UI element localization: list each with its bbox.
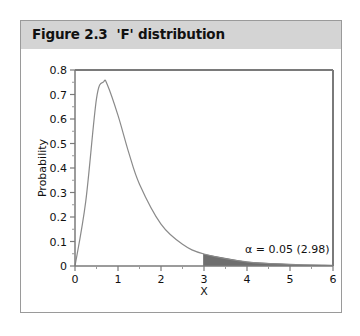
alpha-annotation: α = 0.05 (2.98) (245, 243, 330, 256)
x-tick-label: 2 (158, 273, 165, 286)
y-tick-label: 0.3 (50, 187, 68, 200)
plot-area (75, 70, 333, 266)
y-tick-label: 0.5 (50, 138, 68, 151)
f-distribution-chart: 00.10.20.30.40.50.60.70.8 0123456 Probab… (0, 0, 360, 336)
x-axis-title: X (200, 285, 208, 298)
y-tick-label: 0.8 (50, 64, 68, 77)
y-tick-label: 0.7 (50, 89, 68, 102)
x-tick-label: 6 (330, 273, 337, 286)
x-axis: 0123456 (72, 266, 337, 286)
y-tick-label: 0.1 (50, 236, 68, 249)
x-tick-label: 0 (72, 273, 79, 286)
x-tick-label: 1 (115, 273, 122, 286)
y-axis: 00.10.20.30.40.50.60.70.8 (50, 64, 76, 273)
x-tick-label: 5 (287, 273, 294, 286)
y-axis-title: Probability (36, 138, 49, 197)
y-tick-label: 0.6 (50, 113, 68, 126)
y-tick-label: 0.2 (50, 211, 68, 224)
x-tick-label: 4 (244, 273, 251, 286)
y-tick-label: 0.4 (50, 162, 68, 175)
density-curve (75, 80, 333, 266)
y-tick-label: 0 (60, 260, 67, 273)
